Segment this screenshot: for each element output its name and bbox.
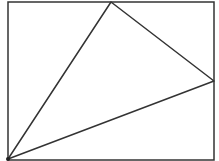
geometry-diagram: [0, 0, 219, 161]
vertex-dot-bottom-left: [6, 157, 10, 161]
inscribed-triangle: [8, 2, 214, 159]
outer-rectangle: [8, 2, 214, 160]
